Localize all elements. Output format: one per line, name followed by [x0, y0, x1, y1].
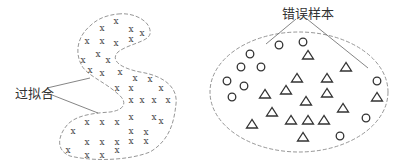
triangle-marker: [319, 116, 330, 125]
x-marker: x: [132, 73, 137, 83]
x-marker: x: [128, 136, 133, 146]
triangle-marker: [322, 74, 333, 83]
triangle-marker: [341, 63, 352, 72]
circle-marker: [362, 114, 370, 122]
x-marker: x: [80, 55, 85, 65]
x-marker: x: [128, 34, 133, 44]
triangle-marker: [281, 86, 292, 95]
x-marker: x: [151, 112, 156, 122]
x-marker: x: [70, 126, 75, 136]
triangle-marker: [303, 51, 314, 60]
x-marker: x: [158, 83, 163, 93]
triangle-marker: [298, 133, 309, 142]
circle-marker: [223, 77, 231, 85]
triangle-marker: [372, 93, 383, 102]
x-marker: x: [87, 65, 92, 75]
x-marker: x: [139, 95, 144, 105]
x-marker: x: [143, 136, 148, 146]
circle-marker: [228, 93, 236, 101]
triangle-marker: [260, 90, 271, 99]
circle-marker: [240, 82, 248, 90]
x-marker: x: [113, 38, 118, 48]
x-marker: x: [139, 28, 144, 38]
x-marker: x: [99, 36, 104, 46]
x-marker: x: [128, 83, 133, 93]
x-marker: x: [128, 95, 133, 105]
x-marker: x: [84, 117, 89, 127]
x-marker: x: [128, 24, 133, 34]
overfit-label: 过拟合: [15, 83, 54, 102]
x-marker: x: [99, 137, 104, 147]
x-marker: x: [99, 23, 104, 33]
x-marker: x: [114, 83, 119, 93]
x-marker: x: [105, 55, 110, 65]
circle-marker: [299, 38, 307, 46]
triangle-marker: [301, 97, 312, 106]
circle-marker: [246, 50, 254, 58]
triangle-marker: [292, 74, 303, 83]
diagram-svg: xxxxxxxxxxxxxxxxxxxxxxxxxxxxxxxxxxxxxxxx…: [0, 0, 393, 167]
triangle-markers: [247, 51, 383, 142]
x-marker: x: [128, 112, 133, 122]
x-marker: x: [114, 117, 119, 127]
error-leader-line-right: [307, 19, 368, 68]
x-marker: x: [117, 67, 122, 77]
error-samples-label: 错误样本: [282, 3, 334, 22]
triangle-marker: [338, 104, 349, 113]
diagram-canvas: xxxxxxxxxxxxxxxxxxxxxxxxxxxxxxxxxxxxxxxx…: [0, 0, 393, 167]
x-marker: x: [65, 145, 70, 155]
x-marker: x: [84, 150, 89, 160]
triangle-marker: [267, 108, 278, 117]
overfit-leader-line-bottom: [47, 93, 98, 113]
triangle-marker: [303, 116, 314, 125]
x-marker: x: [95, 49, 100, 59]
x-marker: x: [147, 74, 152, 84]
x-marker: x: [84, 36, 89, 46]
circle-marker: [275, 41, 283, 49]
circle-marker: [237, 63, 245, 71]
x-marker: x: [84, 137, 89, 147]
circle-marker: [373, 77, 381, 85]
sample-boundary: [210, 32, 388, 152]
triangle-marker: [247, 120, 258, 129]
x-marker: x: [128, 126, 133, 136]
x-marker: x: [151, 95, 156, 105]
x-marker: x: [99, 68, 104, 78]
triangle-marker: [286, 116, 297, 125]
x-marker: x: [113, 16, 118, 26]
circle-marker: [336, 132, 344, 140]
circle-marker: [257, 63, 265, 71]
x-marker: x: [99, 117, 104, 127]
triangle-marker: [322, 89, 333, 98]
x-marker: x: [158, 116, 163, 126]
x-marker: x: [165, 95, 170, 105]
x-marker: x: [114, 145, 119, 155]
x-marker: x: [99, 150, 104, 160]
error-leader-line-left: [266, 19, 296, 44]
